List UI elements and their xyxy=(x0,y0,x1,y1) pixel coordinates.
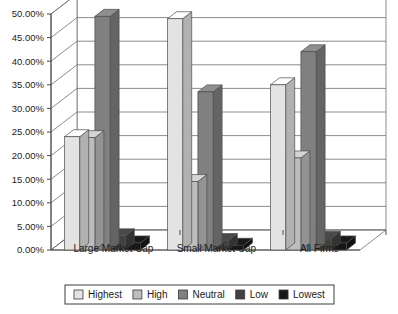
legend-swatch-lowest xyxy=(279,290,288,299)
x-axis-category-label: Small Market Cap xyxy=(177,243,257,254)
legend-swatch-high xyxy=(133,290,142,299)
bar-highest-0 xyxy=(65,130,89,250)
y-axis-tick-label: 0.00% xyxy=(17,244,44,255)
legend-label: Low xyxy=(250,289,269,300)
legend-item-high[interactable]: High xyxy=(133,289,168,300)
legend-item-lowest[interactable]: Lowest xyxy=(279,289,325,300)
legend-label: Highest xyxy=(88,289,122,300)
legend-swatch-low xyxy=(236,290,245,299)
legend-item-highest[interactable]: Highest xyxy=(74,289,122,300)
legend-swatch-highest xyxy=(74,290,83,299)
legend-label: Neutral xyxy=(192,289,224,300)
bar-chart: 0.00%5.00%10.00%15.00%20.00%25.00%30.00%… xyxy=(0,0,398,314)
legend-label: Lowest xyxy=(293,289,325,300)
y-axis-tick-label: 15.00% xyxy=(12,174,45,185)
legend-swatch-neutral xyxy=(178,290,187,299)
y-axis-tick-label: 10.00% xyxy=(12,197,45,208)
legend-item-neutral[interactable]: Neutral xyxy=(178,289,224,300)
chart-legend: HighestHighNeutralLowLowest xyxy=(65,285,334,304)
y-axis-tick-label: 25.00% xyxy=(12,126,45,137)
legend-item-low[interactable]: Low xyxy=(236,289,269,300)
y-axis-tick-label: 5.00% xyxy=(17,221,44,232)
y-axis-tick-label: 45.00% xyxy=(12,32,45,43)
bar-highest-1 xyxy=(168,12,192,250)
y-axis-tick-label: 35.00% xyxy=(12,79,45,90)
x-axis-category-label: All Firms xyxy=(300,243,339,254)
legend-label: High xyxy=(147,289,168,300)
chart-canvas: 0.00%5.00%10.00%15.00%20.00%25.00%30.00%… xyxy=(0,0,398,314)
x-axis-category-label: Large Market Cap xyxy=(73,243,153,254)
y-axis-tick-label: 30.00% xyxy=(12,103,45,114)
y-axis-tick-label: 50.00% xyxy=(12,8,45,19)
y-axis-tick-label: 40.00% xyxy=(12,56,45,67)
y-axis-tick-label: 20.00% xyxy=(12,150,45,161)
bar-highest-2 xyxy=(271,78,295,250)
